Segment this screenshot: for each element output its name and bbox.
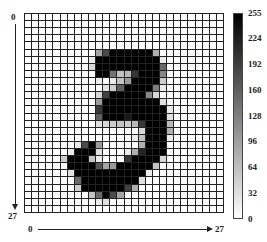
pixel-cell (181, 92, 187, 98)
pixel-cell (68, 42, 74, 48)
pixel-cell (125, 192, 131, 198)
pixel-cell (96, 78, 102, 84)
pixel-cell (132, 42, 138, 48)
pixel-cell (139, 149, 145, 155)
pixel-cell (188, 142, 194, 148)
pixel-cell (174, 71, 180, 77)
pixel-cell (68, 177, 74, 183)
pixel-cell (68, 199, 74, 205)
pixel-cell (160, 128, 166, 134)
pixel-cell (39, 199, 45, 205)
pixel-cell (139, 199, 145, 205)
pixel-cell (117, 128, 123, 134)
pixel-cell (25, 199, 31, 205)
pixel-cell (25, 149, 31, 155)
pixel-cell (53, 42, 59, 48)
pixel-cell (32, 64, 38, 70)
pixel-cell (32, 92, 38, 98)
pixel-cell (25, 14, 31, 20)
pixel-cell (25, 206, 31, 212)
pixel-cell (75, 128, 81, 134)
pixel-cell (188, 206, 194, 212)
pixel-cell (68, 64, 74, 70)
pixel-cell (117, 135, 123, 141)
pixel-cell (146, 170, 152, 176)
pixel-cell (146, 50, 152, 56)
pixel-cell (75, 135, 81, 141)
pixel-cell (75, 50, 81, 56)
pixel-cell (103, 206, 109, 212)
pixel-cell (203, 50, 209, 56)
pixel-cell (167, 99, 173, 105)
pixel-cell (139, 28, 145, 34)
pixel-cell (103, 28, 109, 34)
pixel-cell (25, 135, 31, 141)
pixel-cell (96, 28, 102, 34)
pixel-cell (68, 121, 74, 127)
pixel-cell (125, 185, 131, 191)
pixel-cell (132, 99, 138, 105)
pixel-cell (32, 50, 38, 56)
pixel-cell (103, 114, 109, 120)
pixel-cell (96, 42, 102, 48)
pixel-cell (110, 99, 116, 105)
pixel-cell (146, 64, 152, 70)
pixel-cell (68, 128, 74, 134)
pixel-cell (89, 142, 95, 148)
pixel-cell (68, 149, 74, 155)
pixel-cell (160, 149, 166, 155)
pixel-cell (82, 57, 88, 63)
pixel-cell (210, 50, 216, 56)
pixel-cell (139, 135, 145, 141)
pixel-cell (125, 99, 131, 105)
pixel-cell (103, 85, 109, 91)
pixel-cell (153, 199, 159, 205)
pixel-cell (153, 99, 159, 105)
colorbar-tick-label: 192 (248, 60, 262, 69)
pixel-cell (75, 177, 81, 183)
pixel-cell (110, 121, 116, 127)
pixel-cell (39, 85, 45, 91)
pixel-cell (125, 64, 131, 70)
pixel-cell (203, 28, 209, 34)
pixel-cell (146, 114, 152, 120)
pixel-cell (174, 92, 180, 98)
pixel-cell (181, 142, 187, 148)
pixel-cell (125, 142, 131, 148)
pixel-cell (25, 78, 31, 84)
pixel-cell (181, 185, 187, 191)
pixel-cell (82, 28, 88, 34)
pixel-cell (110, 71, 116, 77)
pixel-cell (32, 42, 38, 48)
pixel-cell (153, 206, 159, 212)
pixel-cell (103, 99, 109, 105)
pixel-cell (188, 114, 194, 120)
y-axis-arrow-icon (15, 24, 16, 205)
pixel-cell (153, 156, 159, 162)
pixel-cell (203, 64, 209, 70)
pixel-cell (96, 142, 102, 148)
pixel-cell (89, 35, 95, 41)
pixel-cell (160, 85, 166, 91)
pixel-cell (132, 170, 138, 176)
pixel-cell (210, 192, 216, 198)
pixel-cell (210, 206, 216, 212)
pixel-cell (139, 106, 145, 112)
pixel-cell (117, 99, 123, 105)
pixel-cell (167, 177, 173, 183)
pixel-cell (160, 28, 166, 34)
pixel-cell (89, 206, 95, 212)
pixel-cell (153, 50, 159, 56)
pixel-cell (39, 206, 45, 212)
pixel-cell (61, 14, 67, 20)
pixel-cell (210, 28, 216, 34)
pixel-cell (96, 85, 102, 91)
pixel-cell (196, 142, 202, 148)
pixel-cell (203, 156, 209, 162)
pixel-cell (181, 128, 187, 134)
pixel-cell (82, 142, 88, 148)
pixel-cell (132, 149, 138, 155)
pixel-cell (167, 142, 173, 148)
pixel-cell (96, 21, 102, 27)
pixel-cell (110, 21, 116, 27)
